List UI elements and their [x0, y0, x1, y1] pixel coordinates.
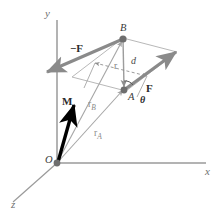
relative-vector-r: [123, 39, 124, 87]
z-axis-line: [13, 163, 57, 202]
relative-vector-group: [123, 39, 124, 87]
point-O-label: O: [45, 155, 53, 166]
moment-M-label: M: [62, 96, 72, 107]
distance-d-label: d: [131, 56, 136, 66]
z-axis-label: z: [11, 199, 15, 210]
force-negative-F-label: −F: [70, 43, 83, 54]
point-B-label: B: [120, 23, 126, 34]
position-vector-rB-label: rB: [88, 100, 96, 111]
axis-group: [13, 20, 206, 202]
distance-d-dimension-line: [95, 63, 147, 76]
relative-vector-r-label: r: [114, 62, 117, 72]
x-axis-label: x: [205, 166, 210, 177]
angle-theta-label: θ: [140, 95, 145, 105]
point-A-dot: [121, 87, 128, 94]
point-O-dot: [54, 160, 61, 167]
diagram-canvas: [0, 0, 218, 215]
couple-moment-diagram: y x z O A B F −F M rB rA r d θ: [0, 0, 218, 215]
point-A-label: A: [128, 92, 134, 103]
y-axis-label: y: [45, 8, 50, 19]
point-B-dot: [119, 35, 126, 42]
force-F-label: F: [146, 83, 153, 94]
position-vector-rA-label: rA: [94, 129, 102, 140]
